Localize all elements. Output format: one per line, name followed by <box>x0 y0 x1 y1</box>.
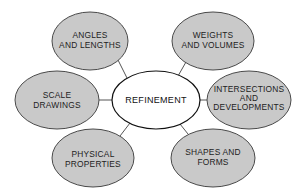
node-label-line: DEVELOPMENTS <box>213 102 284 112</box>
node-label-line: AND LENGTHS <box>59 40 121 50</box>
node-label-line: FORMS <box>197 157 228 167</box>
node-label-line: SCALE <box>43 90 72 100</box>
node-angles-and-lengths: ANGLES AND LENGTHS <box>52 12 128 70</box>
node-label-line: PROPERTIES <box>65 159 121 169</box>
node-label-line: PHYSICAL <box>71 149 114 159</box>
node-shapes-and-forms: SHAPES AND FORMS <box>171 129 255 187</box>
node-label-line: WEIGHTS <box>193 30 234 40</box>
node-weights-and-volumes: WEIGHTS AND VOLUMES <box>172 12 254 70</box>
connector-shapes-and-forms <box>180 124 188 134</box>
node-physical-properties: PHYSICAL PROPERTIES <box>52 129 134 187</box>
node-scale-drawings: SCALE DRAWINGS <box>15 71 99 129</box>
center-node-refinement: REFINEMENT <box>112 71 200 129</box>
connector-angles-and-lengths <box>118 60 127 78</box>
node-label-line: ANGLES <box>72 30 107 40</box>
node-label-line: AND VOLUMES <box>181 40 244 50</box>
center-label: REFINEMENT <box>125 95 187 105</box>
node-intersections-and-developments: INTERSECTIONS AND DEVELOPMENTS <box>207 71 291 129</box>
concept-diagram: ANGLES AND LENGTHS WEIGHTS AND VOLUMES S… <box>0 0 303 196</box>
node-label-line: SHAPES AND <box>185 147 241 157</box>
node-label-line: DRAWINGS <box>33 100 81 110</box>
connector-weights-and-volumes <box>178 62 186 76</box>
connector-physical-properties <box>120 123 130 136</box>
